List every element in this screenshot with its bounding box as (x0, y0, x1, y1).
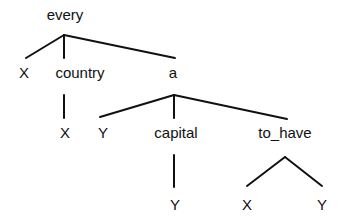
edge-every-a (64, 35, 175, 58)
edge-a-y (100, 95, 174, 117)
node-to-have-x: X (242, 196, 252, 213)
edge-to-have-x (247, 157, 285, 186)
edge-to-have-y (285, 157, 322, 186)
edge-every-x (26, 35, 64, 58)
node-country-x: X (60, 124, 70, 141)
node-to-have-y: Y (317, 196, 327, 213)
node-every: every (47, 6, 84, 23)
tree-diagram: every X country a X Y capital to_have Y … (0, 0, 346, 221)
node-every-x: X (19, 64, 29, 81)
node-capital: capital (154, 124, 197, 141)
node-capital-y: Y (170, 196, 180, 213)
node-a: a (169, 64, 178, 81)
node-to-have: to_have (258, 124, 311, 141)
node-a-y: Y (98, 124, 108, 141)
edge-a-to-have (174, 95, 287, 119)
node-country: country (55, 64, 105, 81)
tree-svg: every X country a X Y capital to_have Y … (0, 0, 346, 221)
